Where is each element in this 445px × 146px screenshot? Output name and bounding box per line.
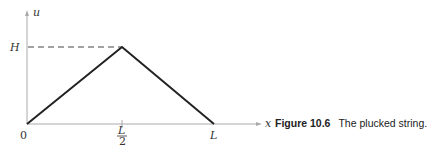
h-tick-label: H: [9, 41, 20, 54]
figure-number: Figure 10.6: [275, 117, 330, 129]
string-curve: [27, 47, 214, 124]
figure-caption-text: The plucked string.: [338, 117, 427, 129]
x-axis-arrow-icon: [256, 122, 262, 126]
y-axis-arrow-icon: [25, 10, 29, 16]
l-tick-label: L: [209, 129, 217, 142]
y-axis-label: u: [33, 6, 40, 19]
x-axis-label: x: [265, 117, 272, 130]
origin-label: 0: [20, 129, 27, 142]
figure-caption: Figure 10.6The plucked string.: [275, 117, 427, 129]
l-half-denominator: 2: [119, 135, 126, 146]
